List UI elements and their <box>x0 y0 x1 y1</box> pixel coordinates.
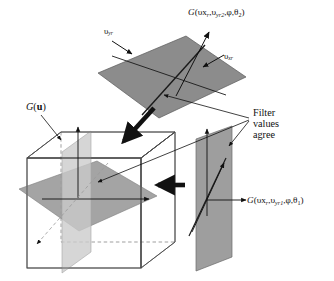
projection-arrow-into-cube <box>124 108 154 141</box>
top-plane-label-arg2-sub: yr2 <box>216 12 224 18</box>
filter-values-agree-annotation: Filter values agree <box>253 107 279 140</box>
right-plane-label-arg1: υx <box>257 195 266 205</box>
annotation-line-3: agree <box>253 129 279 140</box>
right-plane-label-arg2-sub: yr1 <box>275 200 283 206</box>
annotation-line-2: values <box>253 118 279 129</box>
annotation-line-1: Filter <box>253 107 279 118</box>
axis-yr-arrow <box>112 41 132 54</box>
right-plane-label: G(υxr,υyr1,φ,θ1) <box>247 196 304 206</box>
figure-canvas: G(υxr,υyr2,φ,θ2) G(υxr,υyr1,φ,θ1) G(u) υ… <box>0 0 334 281</box>
axis-label-vyr-sub: yr <box>108 30 113 36</box>
cube-label: G(u) <box>26 101 46 112</box>
axis-label-vxr-sub: xr <box>228 55 233 61</box>
axis-label-vyr: υyr <box>104 27 113 37</box>
axis-label-vxr: υxr <box>224 52 233 62</box>
top-plane-label-arg1: υx <box>198 7 207 17</box>
right-plane-label-fn: G <box>247 195 254 205</box>
diagram-svg <box>0 0 334 281</box>
top-plane-group <box>98 36 246 118</box>
top-plane-label-fn: G <box>188 7 195 17</box>
top-plane-label: G(υxr,υyr2,φ,θ2) <box>188 8 245 18</box>
cube-top-face <box>27 132 175 158</box>
top-plane-label-close: ) <box>242 7 245 17</box>
right-plane-label-close: ) <box>301 195 304 205</box>
right-plane-group <box>189 126 232 271</box>
cube-top-face-overlay <box>27 132 175 158</box>
right-plane-surface <box>196 126 232 271</box>
cube-vertical-slice-plane <box>62 131 91 273</box>
cube-label-leader-line <box>41 115 61 140</box>
cube-label-close: ) <box>42 101 45 112</box>
